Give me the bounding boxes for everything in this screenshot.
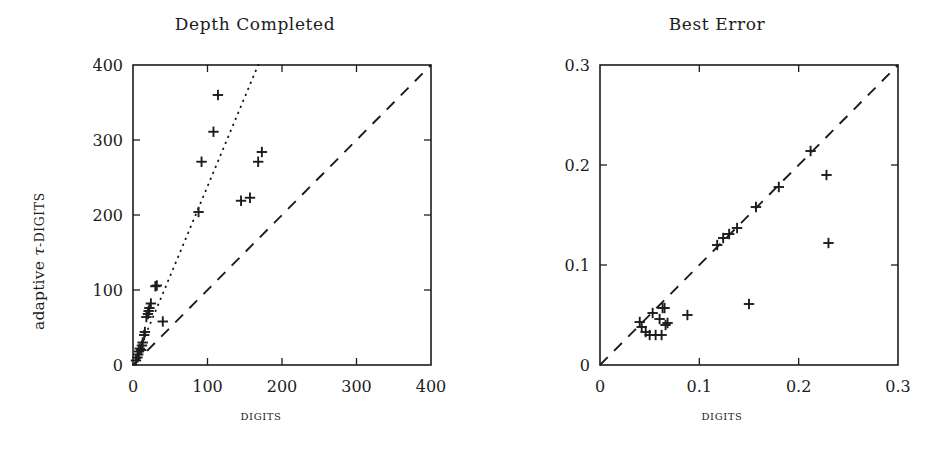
data-point-marker bbox=[682, 310, 692, 320]
data-point-marker bbox=[253, 157, 263, 167]
reference-line-slope-ratio bbox=[133, 65, 258, 365]
plot-area-best-error: 00.10.20.300.10.20.3 bbox=[467, 0, 937, 400]
data-point-marker bbox=[805, 146, 815, 156]
x-axis-label-right: DIGITS bbox=[467, 408, 937, 423]
y-tick-label: 300 bbox=[92, 131, 123, 150]
data-point-marker bbox=[236, 196, 246, 206]
data-point-marker bbox=[635, 317, 645, 327]
x-axis-label-left: DIGITS bbox=[0, 408, 470, 423]
data-point-marker bbox=[712, 240, 722, 250]
y-tick-label: 0.3 bbox=[565, 56, 590, 75]
x-tick-label: 0 bbox=[595, 377, 605, 396]
x-tick-label: 0.2 bbox=[786, 377, 811, 396]
data-point-group bbox=[131, 90, 267, 366]
x-tick-label: 0.3 bbox=[885, 377, 910, 396]
data-point-marker bbox=[257, 147, 267, 157]
x-tick-label: 200 bbox=[267, 377, 298, 396]
data-point-marker bbox=[656, 330, 666, 340]
data-point-marker bbox=[821, 170, 831, 180]
data-point-marker bbox=[660, 320, 670, 330]
data-point-group bbox=[635, 146, 834, 340]
y-tick-label: 0 bbox=[580, 356, 590, 375]
data-point-marker bbox=[213, 90, 223, 100]
y-tick-label: 0 bbox=[113, 356, 123, 375]
data-point-marker bbox=[823, 238, 833, 248]
data-point-marker bbox=[744, 299, 754, 309]
data-point-marker bbox=[774, 182, 784, 192]
x-axis-label-text-right: DIGITS bbox=[701, 411, 742, 422]
x-tick-label: 300 bbox=[341, 377, 372, 396]
y-tick-label: 400 bbox=[92, 56, 123, 75]
data-point-marker bbox=[196, 157, 206, 167]
x-tick-label: 0 bbox=[128, 377, 138, 396]
x-axis-label-text-left: DIGITS bbox=[240, 411, 281, 422]
plot-area-depth-completed: 01002003004000100200300400 bbox=[0, 0, 470, 400]
y-tick-label: 200 bbox=[92, 206, 123, 225]
panel-depth-completed: Depth Completed adaptive τ-DIGITS 010020… bbox=[0, 0, 470, 459]
y-tick-label: 100 bbox=[92, 281, 123, 300]
y-tick-label: 0.1 bbox=[565, 256, 590, 275]
y-tick-label: 0.2 bbox=[565, 156, 590, 175]
data-point-marker bbox=[152, 280, 162, 290]
figure-container: Depth Completed adaptive τ-DIGITS 010020… bbox=[0, 0, 937, 459]
x-tick-label: 400 bbox=[416, 377, 447, 396]
reference-line-identity bbox=[133, 65, 431, 365]
panel-best-error: Best Error adaptive τ-DIGITS 00.10.20.30… bbox=[467, 0, 937, 459]
data-point-marker bbox=[245, 193, 255, 203]
x-tick-label: 0.1 bbox=[687, 377, 712, 396]
data-point-marker bbox=[208, 127, 218, 137]
x-tick-label: 100 bbox=[192, 377, 223, 396]
data-point-marker bbox=[158, 316, 168, 326]
reference-line-identity bbox=[600, 65, 898, 365]
